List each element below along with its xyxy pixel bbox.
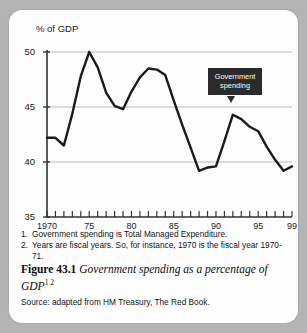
annotation-line-1: Government bbox=[210, 72, 260, 82]
chart-area: % of GDP 50454035 1970758085909599 Gover… bbox=[9, 10, 298, 225]
figure-card: % of GDP 50454035 1970758085909599 Gover… bbox=[9, 10, 298, 323]
figure-source: Source: adapted from HM Treasury, The Re… bbox=[21, 297, 291, 307]
annotation-line-2: spending bbox=[210, 81, 260, 91]
y-tick-label-text: 50 bbox=[19, 46, 35, 57]
annotation-callout: Government spending bbox=[208, 68, 262, 95]
figure-number: Figure 43.1 bbox=[21, 263, 76, 275]
note-1-text: Government spending is Total Managed Exp… bbox=[32, 229, 290, 240]
y-tick-label-35: 35 bbox=[19, 211, 35, 222]
note-1-number: 1. bbox=[21, 229, 28, 240]
line-chart-plot bbox=[9, 10, 298, 225]
y-tick-label-text: 35 bbox=[19, 211, 35, 222]
figure-caption: Figure 43.1 Government spending as a per… bbox=[21, 263, 289, 293]
figure-caption-superscripts: 1 2 bbox=[45, 278, 54, 287]
y-tick-label-40: 40 bbox=[19, 156, 35, 167]
y-tick-label-text: 45 bbox=[19, 101, 35, 112]
y-tick-label-45: 45 bbox=[19, 101, 35, 112]
y-tick-label-50: 50 bbox=[19, 46, 35, 57]
note-2-text: Years are fiscal years. So, for instance… bbox=[32, 240, 290, 261]
note-2-number: 2. bbox=[21, 240, 28, 251]
annotation-pointer-icon bbox=[227, 96, 235, 103]
y-tick-label-text: 40 bbox=[19, 156, 35, 167]
figure-page: % of GDP 50454035 1970758085909599 Gover… bbox=[0, 0, 307, 333]
